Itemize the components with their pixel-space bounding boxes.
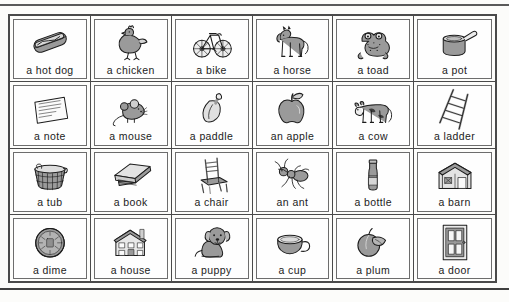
picture-label: a pot bbox=[418, 65, 491, 79]
picture-card: a bike bbox=[175, 19, 249, 79]
picture-card: a hot dog bbox=[13, 19, 87, 79]
grid-cell[interactable]: a dime bbox=[10, 215, 91, 281]
picture-card: a house bbox=[94, 218, 168, 279]
pot-icon bbox=[418, 20, 491, 65]
picture-card: a cow bbox=[336, 85, 410, 145]
grid-cell[interactable]: a chair bbox=[172, 149, 253, 215]
grid-cell[interactable]: a tub bbox=[10, 149, 91, 215]
picture-card: a tub bbox=[13, 152, 87, 212]
grid-cell[interactable]: a barn bbox=[414, 149, 495, 215]
paddle-icon bbox=[176, 86, 248, 131]
horse-icon bbox=[257, 20, 329, 65]
picture-label: a chicken bbox=[95, 65, 167, 79]
chicken-icon bbox=[95, 20, 167, 65]
grid-cell[interactable]: a house bbox=[91, 215, 172, 281]
picture-card: a door bbox=[417, 218, 492, 279]
picture-card: a dime bbox=[13, 218, 87, 279]
picture-card: a pot bbox=[417, 19, 492, 79]
bottle-icon bbox=[337, 153, 409, 198]
grid-cell[interactable]: a hot dog bbox=[10, 16, 91, 82]
picture-label: a toad bbox=[337, 65, 409, 79]
apple-icon bbox=[257, 86, 329, 131]
picture-label: a cup bbox=[257, 265, 329, 279]
picture-card: a paddle bbox=[175, 85, 249, 145]
grid-cell[interactable]: a note bbox=[10, 82, 91, 148]
chair-icon bbox=[176, 153, 248, 198]
grid-cell[interactable]: a mouse bbox=[91, 82, 172, 148]
bottom-rule bbox=[0, 288, 509, 290]
picture-label: a ladder bbox=[418, 131, 491, 145]
book-icon bbox=[95, 153, 167, 198]
grid-cell[interactable]: a book bbox=[91, 149, 172, 215]
note-icon bbox=[14, 86, 86, 131]
picture-label: a chair bbox=[176, 197, 248, 211]
grid-cell[interactable]: a bottle bbox=[333, 149, 414, 215]
picture-label: a note bbox=[14, 131, 86, 145]
grid-cell[interactable]: a ladder bbox=[414, 82, 495, 148]
grid-cell[interactable]: a horse bbox=[253, 16, 334, 82]
hot-dog-icon bbox=[14, 20, 86, 65]
grid-cell[interactable]: a plum bbox=[333, 215, 414, 281]
picture-label: an ant bbox=[257, 197, 329, 211]
picture-card: a barn bbox=[417, 152, 492, 212]
picture-vocabulary-grid: a hot doga chickena bikea horsea toada p… bbox=[8, 14, 497, 283]
picture-card: a puppy bbox=[175, 218, 249, 279]
picture-card: a book bbox=[94, 152, 168, 212]
barn-icon bbox=[418, 153, 491, 198]
picture-card: an ant bbox=[256, 152, 330, 212]
grid-cell[interactable]: a cow bbox=[333, 82, 414, 148]
picture-label: a tub bbox=[14, 197, 86, 211]
picture-card: a chicken bbox=[94, 19, 168, 79]
toad-icon bbox=[337, 20, 409, 65]
picture-label: a horse bbox=[257, 65, 329, 79]
picture-label: a cow bbox=[337, 131, 409, 145]
bike-icon bbox=[176, 20, 248, 65]
house-icon bbox=[95, 219, 167, 265]
picture-card: a bottle bbox=[336, 152, 410, 212]
grid-cell[interactable]: a bike bbox=[172, 16, 253, 82]
picture-label: a book bbox=[95, 197, 167, 211]
picture-card: a cup bbox=[256, 218, 330, 279]
plum-icon bbox=[337, 219, 409, 265]
dime-icon bbox=[14, 219, 86, 265]
picture-label: a plum bbox=[337, 265, 409, 279]
picture-label: a hot dog bbox=[14, 65, 86, 79]
grid-cell[interactable]: an apple bbox=[253, 82, 334, 148]
picture-card: a horse bbox=[256, 19, 330, 79]
door-icon bbox=[418, 219, 491, 265]
picture-card: a mouse bbox=[94, 85, 168, 145]
grid-cell[interactable]: a paddle bbox=[172, 82, 253, 148]
cow-icon bbox=[337, 86, 409, 131]
picture-card: a note bbox=[13, 85, 87, 145]
mouse-icon bbox=[95, 86, 167, 131]
grid-cell[interactable]: a cup bbox=[253, 215, 334, 281]
puppy-icon bbox=[176, 219, 248, 265]
picture-card: a plum bbox=[336, 218, 410, 279]
picture-label: a puppy bbox=[176, 265, 248, 279]
picture-card: a chair bbox=[175, 152, 249, 212]
picture-label: an apple bbox=[257, 131, 329, 145]
tub-icon bbox=[14, 153, 86, 198]
picture-label: a barn bbox=[418, 197, 491, 211]
picture-label: a house bbox=[95, 265, 167, 279]
grid-cell[interactable]: a door bbox=[414, 215, 495, 281]
cup-icon bbox=[257, 219, 329, 265]
grid-cell[interactable]: an ant bbox=[253, 149, 334, 215]
top-rule bbox=[0, 4, 509, 6]
picture-label: a mouse bbox=[95, 131, 167, 145]
picture-card: a ladder bbox=[417, 85, 492, 145]
picture-card: a toad bbox=[336, 19, 410, 79]
ladder-icon bbox=[418, 86, 491, 131]
ant-icon bbox=[257, 153, 329, 198]
picture-label: a bike bbox=[176, 65, 248, 79]
grid-cell[interactable]: a puppy bbox=[172, 215, 253, 281]
picture-label: a dime bbox=[14, 265, 86, 279]
worksheet-page: a hot doga chickena bikea horsea toada p… bbox=[0, 0, 509, 302]
picture-label: a door bbox=[418, 265, 491, 279]
grid-cell[interactable]: a pot bbox=[414, 16, 495, 82]
picture-card: an apple bbox=[256, 85, 330, 145]
picture-label: a paddle bbox=[176, 131, 248, 145]
picture-label: a bottle bbox=[337, 197, 409, 211]
grid-cell[interactable]: a chicken bbox=[91, 16, 172, 82]
grid-cell[interactable]: a toad bbox=[333, 16, 414, 82]
